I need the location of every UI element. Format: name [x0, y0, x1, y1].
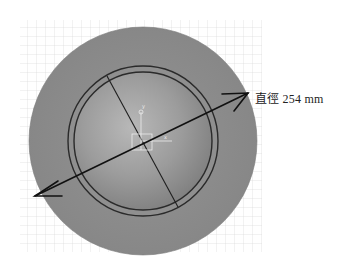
triad-x-label: x [164, 134, 167, 140]
disc-drawing: x y [0, 0, 342, 280]
cad-viewport: x y 直徑 254 mm [0, 0, 342, 280]
triad-y-label: y [142, 103, 145, 110]
diameter-label: 直徑 254 mm [255, 89, 323, 107]
